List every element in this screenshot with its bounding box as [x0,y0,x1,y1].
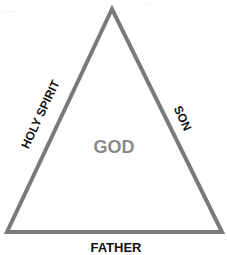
faint-text-top-left: ........ .. [3,7,18,13]
label-god: GOD [93,137,134,157]
label-son: SON [171,104,195,134]
trinity-diagram: ........ .. . . .. . HOLY SPIRIT SON GOD… [0,0,227,255]
faint-text-top-right: . . .. . [145,0,156,5]
label-father: FATHER [90,240,142,255]
